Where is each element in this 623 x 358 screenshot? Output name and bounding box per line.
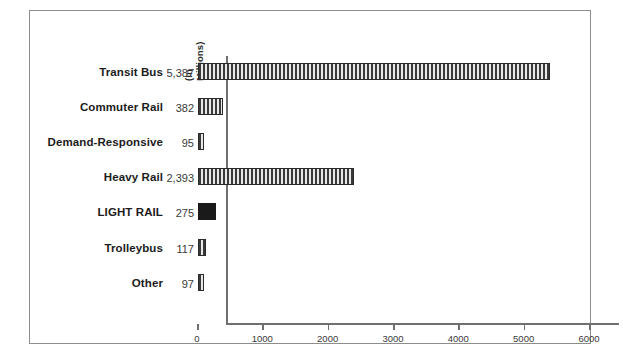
category-label: Other — [1, 277, 163, 289]
category-label: Transit Bus — [1, 66, 163, 78]
bar — [198, 168, 354, 185]
bar — [198, 274, 204, 291]
bar — [198, 133, 204, 150]
category-value: 275 — [163, 207, 194, 219]
bar-row: LIGHT RAIL275 — [30, 203, 623, 221]
x-tick-label: 3000 — [382, 333, 403, 344]
category-value: 382 — [163, 102, 194, 114]
category-value: 5,387 — [163, 67, 194, 79]
bar-row: Demand-Responsive95 — [30, 133, 623, 151]
category-value: 117 — [163, 243, 194, 255]
x-axis-line — [226, 323, 619, 325]
category-value: 2,393 — [163, 172, 194, 184]
x-tick — [197, 324, 199, 330]
x-tick-label: 0 — [194, 333, 199, 344]
category-label: Commuter Rail — [1, 101, 163, 113]
bar-row: Other97 — [30, 274, 623, 292]
x-tick-label: 4000 — [448, 333, 469, 344]
bar — [198, 63, 550, 80]
x-tick — [328, 324, 330, 330]
x-tick — [393, 324, 395, 330]
category-label: Heavy Rail — [1, 171, 163, 183]
x-tick — [524, 324, 526, 330]
x-tick-label: 1000 — [252, 333, 273, 344]
bar — [198, 98, 223, 115]
bar-row: Trolleybus117 — [30, 239, 623, 257]
x-tick-label: 2000 — [317, 333, 338, 344]
bar-row: Commuter Rail382 — [30, 98, 623, 116]
bar-highlight — [198, 203, 216, 220]
x-tick-label: 5000 — [513, 333, 534, 344]
x-tick — [262, 324, 264, 330]
category-label: Demand-Responsive — [1, 136, 163, 148]
bar-row: Heavy Rail2,393 — [30, 168, 623, 186]
chart-frame: (In Millions) 0100020003000400050006000 … — [29, 10, 591, 344]
category-value: 97 — [163, 278, 194, 290]
bar — [198, 239, 206, 256]
x-tick — [458, 324, 460, 330]
category-label: LIGHT RAIL — [1, 206, 163, 218]
category-value: 95 — [163, 137, 194, 149]
category-label: Trolleybus — [1, 242, 163, 254]
x-tick — [589, 324, 591, 330]
x-tick-label: 6000 — [578, 333, 599, 344]
bar-row: Transit Bus5,387 — [30, 63, 623, 81]
